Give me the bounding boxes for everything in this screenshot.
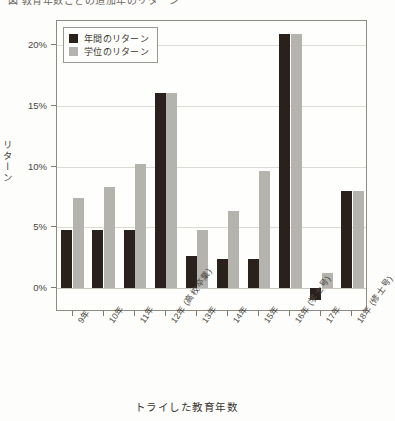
x-tick-mark	[320, 311, 321, 316]
bar-annual-6	[248, 259, 259, 288]
y-tick-mark	[51, 44, 56, 45]
y-tick-label: 10%	[28, 160, 47, 171]
bar-annual-7	[279, 34, 290, 287]
bar-degree-2	[135, 164, 146, 288]
y-tick-mark	[51, 226, 56, 227]
y-tick-label: 15%	[28, 99, 47, 110]
y-tick-mark	[51, 287, 56, 288]
bar-annual-9	[341, 191, 352, 288]
legend-label-annual: 年間のリターン	[84, 32, 149, 45]
legend-item-annual: 年間のリターン	[69, 32, 149, 45]
x-tick-mark	[103, 311, 104, 316]
y-tick-label: 20%	[28, 39, 47, 50]
bar-annual-5	[217, 259, 228, 288]
bars-layer	[57, 21, 366, 310]
x-tick-mark	[227, 311, 228, 316]
x-tick-mark	[72, 311, 73, 316]
y-axis-title: リターン	[2, 140, 12, 184]
y-tick-mark	[51, 105, 56, 106]
bar-annual-0	[61, 230, 72, 288]
y-tick-label: 5%	[33, 221, 47, 232]
x-axis-title: トライした教育年数	[0, 399, 373, 414]
bar-degree-1	[104, 187, 115, 288]
cropped-caption-text: 図 教育年数ごとの追加年のリターン	[8, 0, 179, 7]
bar-annual-2	[124, 230, 135, 288]
y-tick-mark	[51, 166, 56, 167]
legend-item-degree: 学位のリターン	[69, 45, 149, 58]
chart-legend: 年間のリターン 学位のリターン	[63, 27, 158, 63]
x-tick-mark	[196, 311, 197, 316]
y-tick-label: 0%	[33, 281, 47, 292]
bar-degree-3	[166, 93, 177, 288]
x-tick-mark	[165, 311, 166, 316]
bar-degree-7	[291, 34, 302, 287]
plot-area	[56, 20, 367, 311]
legend-swatch-annual-icon	[69, 34, 78, 43]
x-tick-mark	[258, 311, 259, 316]
bar-degree-6	[259, 171, 270, 287]
legend-swatch-degree-icon	[69, 47, 78, 56]
bar-annual-3	[155, 93, 166, 288]
bar-degree-9	[353, 191, 364, 288]
bar-annual-1	[92, 230, 103, 288]
cropped-caption-strip: 図 教育年数ごとの追加年のリターン	[0, 0, 373, 13]
bar-degree-5	[228, 211, 239, 287]
x-tick-mark	[134, 311, 135, 316]
legend-label-degree: 学位のリターン	[84, 45, 149, 58]
x-tick-mark	[351, 311, 352, 316]
x-tick-mark	[289, 311, 290, 316]
bar-degree-0	[73, 198, 84, 288]
